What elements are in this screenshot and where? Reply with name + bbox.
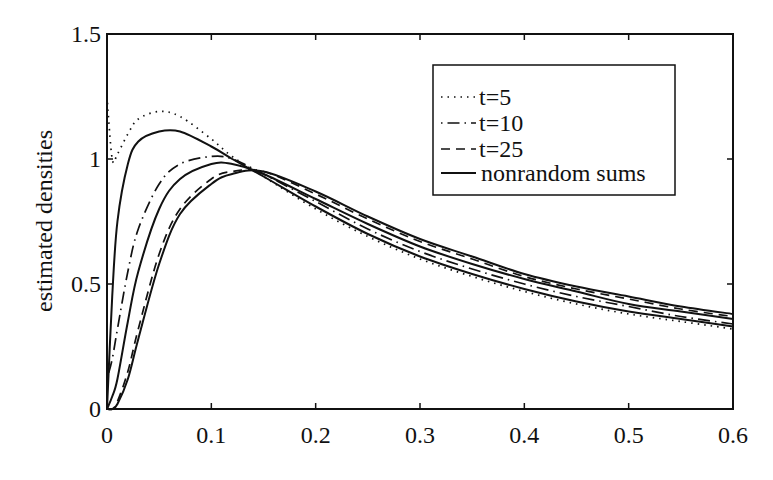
x-tick-label: 0.3 bbox=[405, 422, 435, 448]
y-tick-label: 0.5 bbox=[71, 271, 101, 297]
x-tick-label: 0.2 bbox=[301, 422, 331, 448]
y-axis-label: estimated densities bbox=[31, 130, 57, 312]
legend-label-t5: t=5 bbox=[479, 84, 511, 110]
legend-label-t25: t=25 bbox=[479, 136, 523, 162]
x-tick-label: 0.1 bbox=[196, 422, 226, 448]
legend-label-t10: t=10 bbox=[479, 110, 523, 136]
y-tick-label: 1 bbox=[89, 146, 101, 172]
x-tick-label: 0.5 bbox=[614, 422, 644, 448]
legend-label-nonrandom: nonrandom sums bbox=[481, 160, 646, 186]
x-tick-label: 0.6 bbox=[718, 422, 748, 448]
density-chart: 00.10.20.30.40.50.6 00.511.5 estimated d… bbox=[0, 0, 773, 480]
y-tick-label: 1.5 bbox=[71, 21, 101, 47]
legend: t=5 t=10 t=25 nonrandom sums bbox=[433, 65, 675, 195]
x-tick-label: 0.4 bbox=[509, 422, 539, 448]
y-tick-label: 0 bbox=[89, 396, 101, 422]
x-tick-label: 0 bbox=[101, 422, 113, 448]
